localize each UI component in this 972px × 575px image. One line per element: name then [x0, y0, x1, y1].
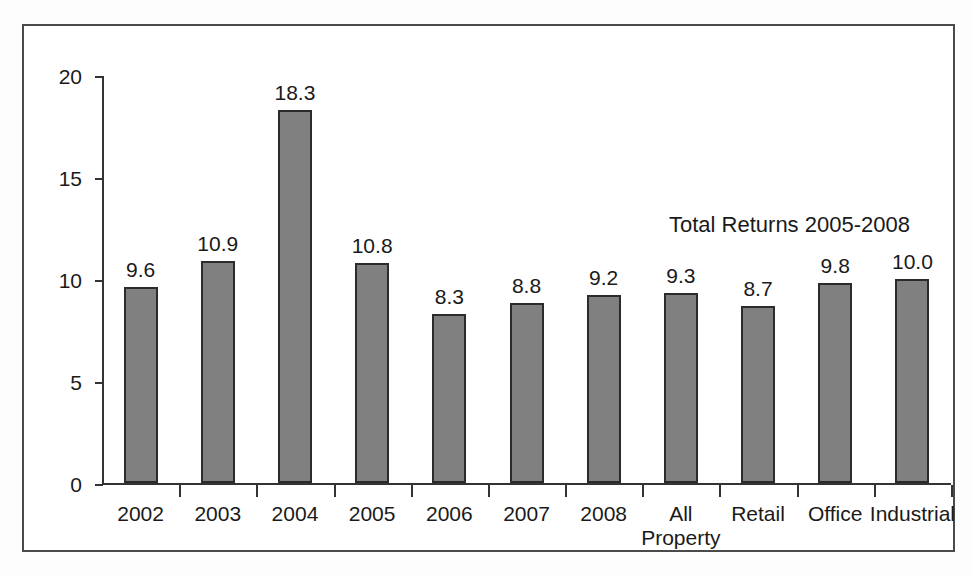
bar — [432, 314, 466, 483]
category-label-line: Property — [641, 526, 720, 550]
category-label-line: Office — [808, 502, 862, 526]
category-label-line: 2008 — [580, 502, 627, 526]
category-label-line: Retail — [731, 502, 785, 526]
bar — [278, 110, 312, 483]
chart-frame: Total Returns 2005-2008 05101520 9.610.9… — [22, 24, 955, 552]
x-axis-line — [102, 483, 951, 485]
bar-value-label: 9.8 — [821, 254, 850, 278]
x-axis-category-label: AllProperty — [641, 502, 720, 550]
category-label-line: 2002 — [117, 502, 164, 526]
bar-value-label: 8.8 — [512, 274, 541, 298]
y-axis-tick: 5 — [95, 382, 103, 384]
x-axis-category-label: 2006 — [426, 502, 473, 526]
x-axis-tick — [565, 485, 567, 497]
x-axis-category-label: Retail — [731, 502, 785, 526]
bar-value-label: 9.6 — [126, 258, 155, 282]
category-label-line: 2007 — [503, 502, 550, 526]
bar-value-label: 18.3 — [275, 81, 316, 105]
y-axis-tick-label: 5 — [70, 371, 82, 395]
y-axis-tick: 10 — [95, 280, 103, 282]
x-axis-category-label: 2005 — [349, 502, 396, 526]
category-label-line: 2003 — [194, 502, 241, 526]
x-axis-tick — [256, 485, 258, 497]
x-axis-tick — [179, 485, 181, 497]
x-axis-tick — [874, 485, 876, 497]
bar — [355, 263, 389, 483]
chart-screenshot: Total Returns 2005-2008 05101520 9.610.9… — [0, 0, 972, 575]
bar — [510, 303, 544, 483]
bar — [818, 283, 852, 483]
y-axis-tick: 20 — [95, 76, 103, 78]
x-axis-category-label: 2004 — [272, 502, 319, 526]
x-axis-category-label: Industrial — [870, 502, 955, 526]
bar — [124, 287, 158, 483]
x-axis-tick — [642, 485, 644, 497]
bar — [587, 295, 621, 483]
x-axis-tick — [411, 485, 413, 497]
bar — [201, 261, 235, 483]
y-axis-tick: 15 — [95, 178, 103, 180]
bar-value-label: 10.8 — [352, 234, 393, 258]
bar-value-label: 8.3 — [435, 285, 464, 309]
bar — [741, 306, 775, 483]
bar — [664, 293, 698, 483]
x-axis-tick — [797, 485, 799, 497]
bar-value-label: 10.9 — [197, 232, 238, 256]
x-axis-tick — [488, 485, 490, 497]
x-axis-category-label: 2008 — [580, 502, 627, 526]
x-axis-category-label: 2007 — [503, 502, 550, 526]
y-axis-tick-label: 0 — [70, 473, 82, 497]
y-axis-tick-label: 20 — [59, 65, 82, 89]
x-axis-category-label: 2002 — [117, 502, 164, 526]
x-axis-tick — [719, 485, 721, 497]
x-axis-category-label: 2003 — [194, 502, 241, 526]
y-axis-tick-label: 15 — [59, 167, 82, 191]
bar — [895, 279, 929, 483]
category-label-line: All — [641, 502, 720, 526]
category-label-line: 2006 — [426, 502, 473, 526]
category-label-line: 2004 — [272, 502, 319, 526]
category-label-line: Industrial — [870, 502, 955, 526]
y-axis-tick: 0 — [95, 484, 103, 486]
x-axis-tick — [334, 485, 336, 497]
x-axis-category-label: Office — [808, 502, 862, 526]
plot-area: 05101520 9.610.918.310.88.38.89.29.38.79… — [102, 76, 951, 484]
bar-value-label: 9.3 — [666, 264, 695, 288]
y-axis-tick-label: 10 — [59, 269, 82, 293]
bar-value-label: 9.2 — [589, 266, 618, 290]
bar-value-label: 10.0 — [892, 250, 933, 274]
bar-value-label: 8.7 — [743, 277, 772, 301]
x-axis-tick — [951, 485, 953, 497]
category-label-line: 2005 — [349, 502, 396, 526]
